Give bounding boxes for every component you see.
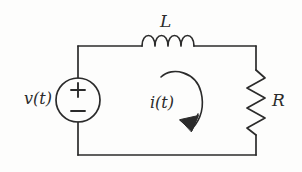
circuit-figure: L R v(t) i(t): [0, 0, 302, 172]
current-label: i(t): [150, 95, 174, 111]
inductor-label: L: [160, 13, 171, 30]
inductor-coil: [142, 36, 194, 47]
resistor-label: R: [272, 92, 285, 109]
resistor-zigzag: [247, 70, 265, 135]
voltage-source-label: v(t): [24, 91, 52, 107]
circuit-schematic-canvas: [0, 0, 302, 172]
plus-sign-icon: [71, 83, 85, 97]
